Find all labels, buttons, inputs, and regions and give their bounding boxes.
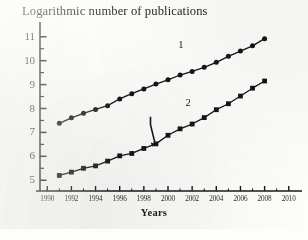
y-tick-label: 5 (14, 173, 35, 185)
y-tick-label: 7 (14, 125, 35, 137)
series-2-marker (57, 173, 62, 178)
annotation-arrow-shaft (150, 117, 154, 143)
series-1-marker (166, 77, 171, 82)
x-tick-label: 2010 (278, 195, 300, 203)
series-2-marker (190, 122, 195, 127)
series-2-marker (178, 126, 183, 131)
series-2-marker (81, 166, 86, 171)
x-tick-label: 1990 (36, 195, 58, 203)
x-tick-label: 2000 (157, 195, 179, 203)
series-2-marker (214, 107, 219, 112)
series-2-marker (238, 94, 243, 99)
series-1-marker (57, 121, 62, 126)
series-1-marker (81, 111, 86, 116)
series-2-marker (166, 133, 171, 138)
series-2-marker (129, 151, 134, 156)
series-1-marker (117, 96, 122, 101)
series-1-marker (250, 43, 255, 48)
series-1-marker (93, 107, 98, 112)
series-group (57, 36, 267, 178)
series-1-marker (105, 103, 110, 108)
series-1-marker (129, 91, 134, 96)
x-tick-label: 2008 (254, 195, 276, 203)
y-tick-label: 8 (14, 102, 35, 114)
series-line-2 (59, 81, 264, 175)
series-2-marker (250, 86, 255, 91)
axes-group (36, 22, 302, 191)
series-2-marker (262, 79, 267, 84)
series-1-marker (238, 49, 243, 54)
series-2-marker (202, 115, 207, 120)
x-tick-label: 2002 (181, 195, 203, 203)
series-2-marker (117, 153, 122, 158)
x-tick-label: 1998 (133, 195, 155, 203)
series-2-marker (69, 170, 74, 175)
y-tick-label: 9 (14, 78, 35, 90)
series-1-marker (262, 36, 267, 41)
y-tick-label: 11 (14, 30, 35, 42)
series-line-1 (59, 39, 264, 124)
series-1-marker (214, 60, 219, 65)
y-tick-label: 10 (14, 54, 35, 66)
series-1-marker (69, 115, 74, 120)
annotation-group (150, 117, 155, 147)
x-tick-label: 2006 (229, 195, 251, 203)
x-tick-label: 2004 (205, 195, 227, 203)
x-tick-label: 1992 (60, 195, 82, 203)
x-axis-label: Years (0, 207, 308, 218)
series-1-marker (178, 73, 183, 78)
series-1-marker (153, 82, 158, 87)
series-2-marker (141, 146, 146, 151)
x-tick-label: 1996 (109, 195, 131, 203)
series-2-marker (226, 101, 231, 106)
series-1-marker (226, 54, 231, 59)
x-tick-label: 1994 (85, 195, 107, 203)
series-2-marker (105, 159, 110, 164)
series-1-marker (141, 86, 146, 91)
y-tick-label: 6 (14, 149, 35, 161)
series-2-marker (93, 163, 98, 168)
series-1-marker (190, 69, 195, 74)
series-label-2: 2 (186, 97, 191, 108)
series-label-1: 1 (178, 39, 183, 50)
series-1-marker (202, 65, 207, 70)
